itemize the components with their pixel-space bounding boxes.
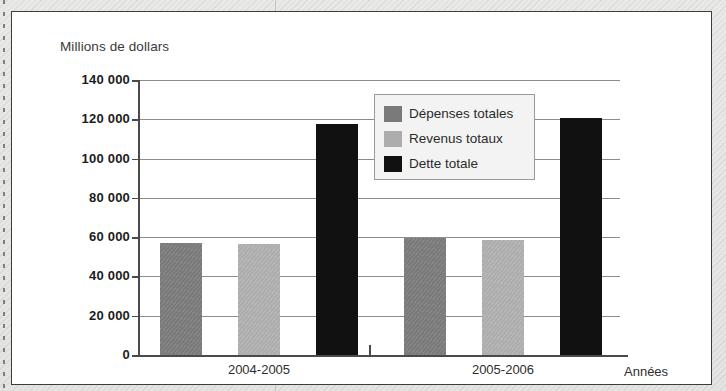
legend-swatch-dette bbox=[384, 156, 402, 172]
legend-swatch-depenses bbox=[384, 106, 402, 122]
bar-dette bbox=[560, 118, 602, 355]
gridline bbox=[138, 237, 620, 238]
bar-depenses bbox=[404, 238, 446, 355]
y-axis-tick-label: 40 000 bbox=[89, 268, 130, 283]
bar-revenus bbox=[482, 240, 524, 355]
y-axis-tick-mark bbox=[132, 119, 138, 121]
legend-label: Dette totale bbox=[409, 157, 478, 171]
y-axis-tick-label: 140 000 bbox=[82, 72, 130, 87]
y-axis-tick-label: 0 bbox=[123, 347, 130, 362]
page-margin-guide bbox=[3, 0, 5, 391]
y-axis-tick-labels: 020 00040 00060 00080 000100 000120 0001… bbox=[42, 12, 130, 391]
y-axis-tick-mark bbox=[132, 316, 138, 318]
legend-label: Dépenses totales bbox=[409, 107, 513, 121]
gridline bbox=[138, 276, 620, 277]
legend-item: Dette totale bbox=[384, 151, 534, 176]
legend-item: Revenus totaux bbox=[384, 126, 534, 151]
y-axis-tick-label: 20 000 bbox=[89, 308, 130, 323]
chart-legend: Dépenses totales Revenus totaux Dette to… bbox=[374, 94, 535, 180]
bar-depenses bbox=[160, 243, 202, 355]
x-axis-group-label: 2004-2005 bbox=[199, 362, 319, 377]
bar-dette bbox=[316, 124, 358, 355]
y-axis-tick-mark bbox=[132, 198, 138, 200]
x-axis-title: Années bbox=[624, 364, 668, 379]
x-axis-line bbox=[138, 355, 628, 357]
chart-figure-card: Millions de dollars 020 00040 00060 0008… bbox=[11, 11, 712, 385]
x-axis-minor-tick bbox=[369, 345, 371, 355]
legend-item: Dépenses totales bbox=[384, 101, 534, 126]
y-axis-tick-label: 120 000 bbox=[82, 111, 130, 126]
y-axis-tick-label: 60 000 bbox=[89, 229, 130, 244]
y-axis-tick-mark bbox=[132, 237, 138, 239]
y-axis-tick-mark bbox=[132, 355, 138, 357]
legend-label: Revenus totaux bbox=[409, 132, 503, 146]
bar-revenus bbox=[238, 244, 280, 355]
y-axis-tick-label: 80 000 bbox=[89, 190, 130, 205]
gridline bbox=[138, 198, 620, 199]
x-axis-group-label: 2005-2006 bbox=[443, 362, 563, 377]
y-axis-line bbox=[138, 80, 140, 356]
y-axis-tick-mark bbox=[132, 276, 138, 278]
gridline bbox=[138, 80, 620, 81]
y-axis-tick-label: 100 000 bbox=[82, 151, 130, 166]
y-axis-tick-mark bbox=[132, 80, 138, 82]
y-axis-tick-mark bbox=[132, 159, 138, 161]
legend-swatch-revenus bbox=[384, 131, 402, 147]
gridline bbox=[138, 316, 620, 317]
